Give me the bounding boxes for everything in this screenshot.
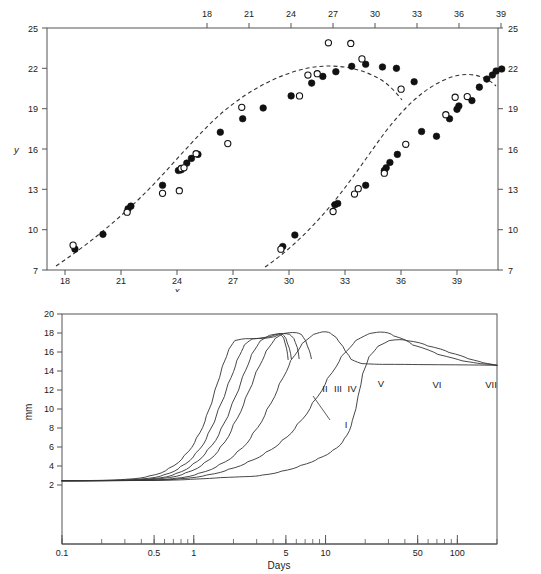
- data-point-open: [305, 72, 311, 78]
- data-point-open: [443, 112, 449, 118]
- y-right-tick-10: 10: [508, 225, 518, 235]
- y-right-tick-13: 13: [508, 185, 518, 195]
- y-tick-label-10: 10: [44, 404, 54, 414]
- curve-label-V: V: [378, 378, 385, 389]
- data-point-open: [225, 141, 231, 147]
- x-bottom-tick-18: 18: [60, 276, 70, 286]
- y-tick-label-2: 2: [49, 480, 54, 490]
- bottom-chart-curve-annotations: II III IV I V VI VII: [313, 378, 497, 430]
- data-point-open: [325, 40, 331, 46]
- curve-I: [62, 335, 288, 481]
- top-chart-figure: 7 10 13 16 19 22 25 y 7 10 13: [0, 0, 541, 292]
- data-point-filled: [476, 84, 483, 91]
- x-top-tick-36: 36: [454, 9, 464, 19]
- data-point-filled: [334, 200, 341, 207]
- data-point-open: [124, 209, 130, 215]
- x-tick-label-100: 100: [450, 548, 465, 558]
- x-axis-bottom-ticks: 18 21 24 27 30 33 36 39: [60, 270, 462, 286]
- data-point-open: [181, 165, 187, 171]
- x-tick-label-5: 5: [283, 548, 288, 558]
- x-bottom-tick-33: 33: [340, 276, 350, 286]
- x-tick-label-50: 50: [413, 548, 423, 558]
- data-point-filled: [128, 203, 135, 210]
- curve-label-II: II: [322, 383, 327, 394]
- data-point-filled: [387, 159, 394, 166]
- data-point-filled: [411, 78, 418, 85]
- data-point-open: [159, 190, 165, 196]
- x-tick-label-0.1: 0.1: [56, 548, 69, 558]
- y-left-tick-16: 16: [28, 145, 38, 155]
- y-axis-right-ticks: 7 10 13 16 19 22 25: [498, 24, 518, 276]
- curve-IV: [62, 333, 311, 481]
- x-bottom-tick-27: 27: [228, 276, 238, 286]
- x-tick-label-1: 1: [191, 548, 196, 558]
- bottom-chart-figure: 2468101214161820 mm 0.10.5151050100 Days…: [0, 292, 541, 574]
- y-tick-label-6: 6: [49, 442, 54, 452]
- data-point-filled: [100, 231, 107, 238]
- data-point-filled: [379, 64, 386, 71]
- x-bottom-tick-39: 39: [452, 276, 462, 286]
- data-point-open: [452, 94, 458, 100]
- top-chart-plot-frame: [47, 28, 498, 270]
- curve-label-VI: VI: [433, 379, 442, 390]
- curve-III: [62, 334, 299, 481]
- fit-curve-left: [56, 66, 402, 266]
- curve-label-IV: IV: [348, 383, 358, 394]
- bottom-chart-svg: 2468101214161820 mm 0.10.5151050100 Days…: [0, 292, 541, 574]
- data-point-filled: [362, 182, 369, 189]
- curve-label-III: III: [334, 383, 342, 394]
- top-chart-svg: 7 10 13 16 19 22 25 y 7 10 13: [0, 0, 541, 292]
- data-point-filled: [393, 65, 400, 72]
- top-chart-ylabel: y: [13, 144, 20, 155]
- y-tick-label-20: 20: [44, 309, 54, 319]
- data-point-filled: [292, 232, 299, 239]
- x-axis-top-ticks: 18 21 24 27 30 33 36 39: [202, 9, 506, 28]
- data-point-open: [239, 104, 245, 110]
- data-point-filled: [159, 182, 166, 189]
- y-right-tick-22: 22: [508, 64, 518, 74]
- data-point-filled: [433, 133, 440, 140]
- data-point-open: [193, 151, 199, 157]
- data-point-filled: [333, 68, 340, 75]
- data-point-open: [403, 141, 409, 147]
- data-point-filled: [348, 63, 355, 70]
- top-chart-data-points: [70, 40, 505, 253]
- curve-VI: [62, 332, 497, 481]
- data-point-filled: [288, 93, 295, 100]
- y-left-tick-25: 25: [28, 24, 38, 34]
- curve-VII: [62, 340, 497, 481]
- data-point-open: [381, 170, 387, 176]
- y-tick-label-18: 18: [44, 328, 54, 338]
- bottom-chart-curves: [62, 332, 497, 481]
- y-tick-label-16: 16: [44, 347, 54, 357]
- x-tick-label-10: 10: [321, 548, 331, 558]
- y-right-tick-25: 25: [508, 24, 518, 34]
- y-right-tick-7: 7: [508, 266, 513, 276]
- bottom-chart-plot-frame: [62, 314, 497, 544]
- y-axis-left-ticks: 7 10 13 16 19 22 25: [28, 24, 47, 276]
- figure-page: 7 10 13 16 19 22 25 y 7 10 13: [0, 0, 541, 574]
- y-tick-label-4: 4: [49, 461, 54, 471]
- data-point-open: [314, 71, 320, 77]
- x-bottom-tick-21: 21: [116, 276, 126, 286]
- data-point-open: [70, 242, 76, 248]
- y-tick-label-14: 14: [44, 366, 54, 376]
- y-right-tick-19: 19: [508, 104, 518, 114]
- x-top-tick-39: 39: [496, 9, 506, 19]
- data-point-filled: [239, 115, 246, 122]
- data-point-filled: [394, 151, 401, 158]
- curve-label-I: I: [345, 419, 348, 430]
- data-point-filled: [217, 129, 224, 136]
- curve-label-VII: VII: [485, 379, 497, 390]
- data-point-filled: [308, 80, 315, 87]
- curve-V: [62, 332, 497, 481]
- bottom-chart-xlabel: Days: [268, 560, 291, 571]
- x-bottom-tick-30: 30: [284, 276, 294, 286]
- y-tick-label-12: 12: [44, 385, 54, 395]
- data-point-filled: [484, 76, 491, 83]
- x-bottom-tick-36: 36: [396, 276, 406, 286]
- data-point-filled: [418, 128, 425, 135]
- x-top-tick-21: 21: [244, 9, 254, 19]
- y-left-tick-19: 19: [28, 104, 38, 114]
- data-point-filled: [260, 105, 267, 112]
